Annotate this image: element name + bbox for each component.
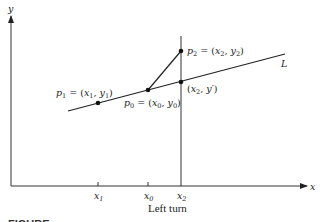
label-p1: p1 = (x1, y1) [56,87,113,100]
left-turn-diagram: y x x1 x0 x2 L p1 = (x1, y1) p0 = (x0, y… [0,0,322,222]
line-L-label: L [280,58,287,69]
point-p1 [96,101,101,106]
label-p0: p0 = (x0, y0) [124,97,181,110]
point-p0 [146,88,151,93]
tick-label-x1: x1 [94,190,104,203]
figure-caption: FIGURE [8,218,50,222]
label-p2: p2 = (x2, y2) [187,45,244,58]
x-axis-label: x [310,181,316,192]
label-projection: (x2, y′) [187,83,218,96]
segment-p0-p2 [148,51,181,90]
y-axis-label: y [7,3,14,14]
point-projection [179,80,184,85]
subtitle-left-turn: Left turn [148,202,187,214]
point-p2 [179,49,184,54]
